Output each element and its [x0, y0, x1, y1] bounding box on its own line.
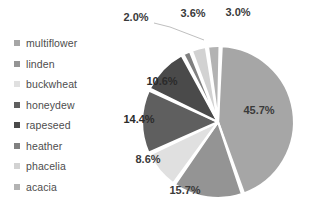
pie-chart-figure: multiflowerlindenbuckwheathoneydewrapese…: [0, 0, 327, 221]
slice-label-inside: 45.7%: [243, 104, 274, 116]
slice-label-outside: 3.0%: [225, 6, 250, 18]
slice-label-inside: 8.6%: [135, 153, 160, 165]
legend-swatch-icon: [14, 81, 20, 87]
legend-item-label: buckwheat: [26, 79, 77, 90]
leader-line-path: [154, 23, 204, 40]
legend-item-label: phacelia: [26, 161, 66, 172]
legend-swatch-icon: [14, 143, 20, 149]
legend-swatch-icon: [14, 102, 20, 108]
slice-label-inside: 10.6%: [146, 75, 177, 87]
pie-plot-area: 45.7%15.7%8.6%14.4%10.6% 2.0%3.6%3.0%: [108, 0, 327, 221]
slice-label-inside: 14.4%: [123, 113, 154, 125]
slice-label-outside: 3.6%: [180, 7, 205, 19]
legend-swatch-icon: [14, 40, 20, 46]
label-leader-line: [154, 23, 204, 40]
slice-label-inside: 15.7%: [169, 184, 200, 196]
legend-item-label: multiflower: [26, 38, 77, 49]
pie-svg: 45.7%15.7%8.6%14.4%10.6% 2.0%3.6%3.0%: [108, 0, 327, 221]
legend-swatch-icon: [14, 184, 20, 190]
legend-item-label: rapeseed: [26, 120, 71, 131]
legend-item-label: linden: [26, 59, 55, 70]
legend-swatch-icon: [14, 163, 20, 169]
slice-label-outside: 2.0%: [123, 11, 148, 23]
legend-item-label: acacia: [26, 182, 57, 193]
pie-slices: [142, 46, 294, 198]
legend-item-label: honeydew: [26, 100, 75, 111]
legend-swatch-icon: [14, 61, 20, 67]
legend-item-label: heather: [26, 141, 62, 152]
legend-swatch-icon: [14, 122, 20, 128]
slice-value-labels-outside: 2.0%3.6%3.0%: [123, 6, 250, 23]
